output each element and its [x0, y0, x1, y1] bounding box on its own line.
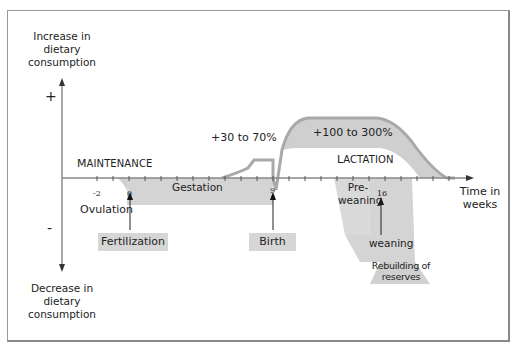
y-axis-bottom-label: Decrease in dietary consumption [22, 282, 102, 321]
rebuilding-label: Rebuilding of reserves [368, 260, 434, 282]
plus-sign: + [45, 90, 57, 103]
ovulation-label: Ovulation [80, 203, 133, 216]
x-axis-arrow [466, 175, 474, 181]
y-axis-up-arrow [59, 78, 65, 86]
birth-box: Birth [249, 233, 296, 251]
minus-sign: - [47, 222, 52, 235]
maintenance-label: MAINTENANCE [77, 157, 152, 170]
tick-0: 0 [127, 189, 132, 198]
y-axis-top-label: Increase in dietary consumption [22, 30, 102, 69]
gestation-increase-annotation: +30 to 70% [211, 131, 277, 144]
y-axis-down-arrow [59, 264, 65, 272]
tick-9: 9 [270, 186, 275, 195]
lactation-increase-annotation: +100 to 300% [313, 126, 393, 139]
lactation-label: LACTATION [337, 153, 394, 166]
x-axis-label: Time in weeks [457, 185, 503, 211]
tick-16: 16 [377, 189, 387, 198]
fertilization-box: Fertilization [98, 233, 168, 251]
pre-weaning-label: Pre- weaning [338, 181, 378, 207]
gestation-label: Gestation [172, 181, 223, 194]
tick-minus-2: -2 [93, 189, 101, 198]
weaning-label: weaning [369, 237, 413, 250]
ovulation-dip [118, 178, 127, 190]
